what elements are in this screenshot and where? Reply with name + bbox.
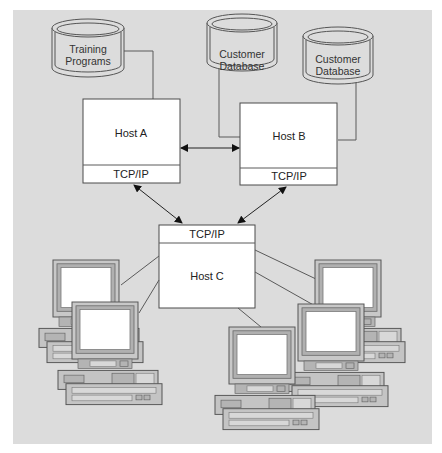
host-a-protocol: TCP/IP bbox=[113, 168, 148, 180]
db2-label-line1: Customer bbox=[219, 48, 265, 60]
host-a-name: Host A bbox=[115, 127, 148, 139]
host-c-protocol: TCP/IP bbox=[189, 228, 224, 240]
host-b-protocol: TCP/IP bbox=[271, 170, 306, 182]
host-b: Host B TCP/IP bbox=[240, 103, 337, 185]
db1-label-line1: Training bbox=[69, 43, 107, 55]
db3-label-line1: Customer bbox=[315, 53, 361, 65]
host-a: Host A TCP/IP bbox=[83, 99, 180, 183]
network-diagram: Training Programs Customer Database Cust… bbox=[0, 0, 442, 453]
host-c-name: Host C bbox=[190, 270, 224, 282]
database-customer-1: Customer Database bbox=[207, 14, 277, 72]
db3-label-line2: Database bbox=[316, 65, 361, 77]
host-b-name: Host B bbox=[272, 130, 305, 142]
db2-label-line2: Database bbox=[220, 60, 265, 72]
db1-label-line2: Programs bbox=[65, 55, 111, 67]
database-training-programs: Training Programs bbox=[52, 19, 124, 77]
database-customer-2: Customer Database bbox=[303, 27, 373, 84]
host-c: TCP/IP Host C bbox=[159, 225, 255, 308]
